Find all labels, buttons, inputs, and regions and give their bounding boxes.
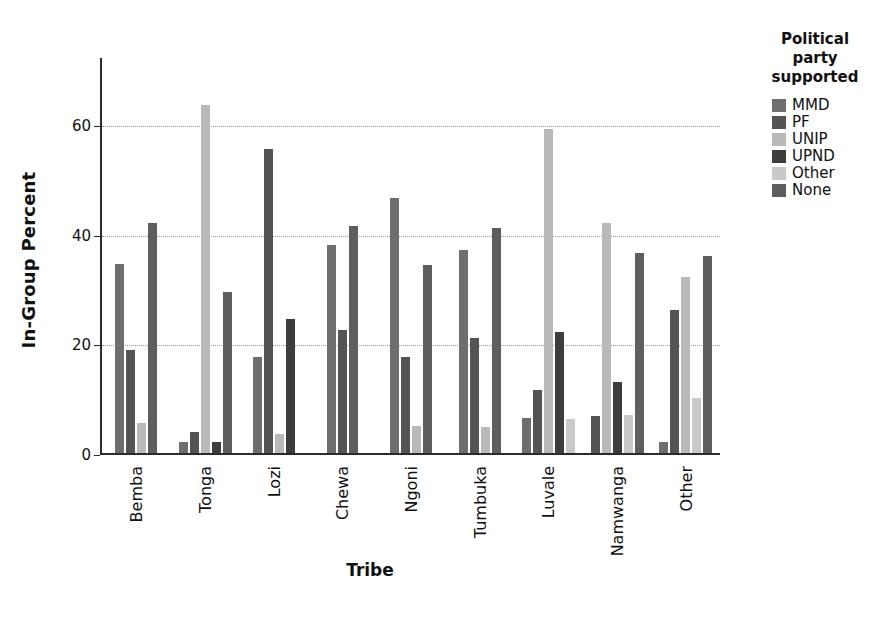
x-tick-label: Chewa <box>333 466 352 520</box>
bar[interactable] <box>223 292 232 453</box>
bar[interactable] <box>115 264 124 453</box>
bar[interactable] <box>423 265 432 453</box>
bar-group <box>651 58 720 453</box>
bar[interactable] <box>212 442 221 453</box>
legend-items: MMDPFUNIPUPNDOtherNone <box>748 98 888 198</box>
bar[interactable] <box>126 350 135 453</box>
x-tick-label: Tonga <box>196 466 215 513</box>
bar[interactable] <box>591 416 600 453</box>
x-tick: Chewa <box>308 462 377 558</box>
bar[interactable] <box>459 250 468 453</box>
x-tick: Lozi <box>239 462 308 558</box>
y-tick-label: 20 <box>72 336 91 354</box>
bar-group <box>445 58 514 453</box>
bar[interactable] <box>481 427 490 453</box>
y-tick-mark <box>94 345 100 346</box>
legend-label: Other <box>792 166 835 181</box>
legend-label: PF <box>792 115 810 130</box>
x-tick-label: Ngoni <box>402 466 421 513</box>
x-tick-label: Namwanga <box>608 466 627 556</box>
bar[interactable] <box>401 357 410 453</box>
bar[interactable] <box>533 390 542 453</box>
x-tick: Tumbuka <box>445 462 514 558</box>
bar[interactable] <box>624 415 633 453</box>
bar[interactable] <box>692 398 701 453</box>
bar[interactable] <box>492 228 501 453</box>
y-tick-label: 40 <box>72 227 91 245</box>
bar-group <box>377 58 446 453</box>
legend-item[interactable]: PF <box>772 115 888 130</box>
bar[interactable] <box>544 129 553 453</box>
legend-label: UPND <box>792 149 835 164</box>
legend-swatch <box>772 150 786 163</box>
legend-swatch <box>772 133 786 146</box>
bar[interactable] <box>275 434 284 453</box>
bar[interactable] <box>602 223 611 453</box>
bar[interactable] <box>390 198 399 453</box>
bar[interactable] <box>179 442 188 453</box>
bar[interactable] <box>264 149 273 453</box>
x-axis-title: Tribe <box>0 560 740 580</box>
legend-label: UNIP <box>792 132 828 147</box>
bar[interactable] <box>137 423 146 453</box>
y-tick-mark <box>94 455 100 456</box>
bar[interactable] <box>286 319 295 453</box>
bar-group <box>102 58 171 453</box>
legend-label: None <box>792 183 831 198</box>
bar[interactable] <box>349 226 358 453</box>
x-tick-label: Other <box>676 466 695 511</box>
legend-item[interactable]: Other <box>772 166 888 181</box>
x-tick: Ngoni <box>377 462 446 558</box>
x-tick: Namwanga <box>583 462 652 558</box>
bar[interactable] <box>681 277 690 453</box>
y-tick-mark <box>94 236 100 237</box>
legend-swatch <box>772 184 786 197</box>
y-tick-label: 60 <box>72 117 91 135</box>
legend-title: Politicalpartysupported <box>748 30 888 86</box>
bar[interactable] <box>635 253 644 453</box>
bar[interactable] <box>338 330 347 453</box>
bar-group <box>239 58 308 453</box>
bar-chart-figure: In-Group Percent 0204060 BembaTongaLoziC… <box>0 0 894 620</box>
x-tick-label: Lozi <box>264 466 283 497</box>
bar[interactable] <box>659 442 668 453</box>
bar-group <box>171 58 240 453</box>
bar-group <box>583 58 652 453</box>
x-tick: Tonga <box>171 462 240 558</box>
legend-item[interactable]: UNIP <box>772 132 888 147</box>
legend-label: MMD <box>792 98 829 113</box>
bar-group <box>514 58 583 453</box>
bar[interactable] <box>470 338 479 453</box>
bar[interactable] <box>253 357 262 453</box>
bar[interactable] <box>412 426 421 453</box>
x-tick-label: Luvale <box>539 466 558 518</box>
y-tick-mark <box>94 126 100 127</box>
x-tick: Bemba <box>102 462 171 558</box>
x-tick: Other <box>651 462 720 558</box>
legend-swatch <box>772 116 786 129</box>
bar[interactable] <box>522 418 531 453</box>
bar[interactable] <box>190 432 199 453</box>
legend-item[interactable]: UPND <box>772 149 888 164</box>
bar[interactable] <box>555 332 564 453</box>
bar[interactable] <box>201 105 210 453</box>
bar[interactable] <box>670 310 679 453</box>
bar[interactable] <box>566 419 575 453</box>
legend: Politicalpartysupported MMDPFUNIPUPNDOth… <box>748 30 888 200</box>
legend-item[interactable]: MMD <box>772 98 888 113</box>
x-tick: Luvale <box>514 462 583 558</box>
plot-area: 0204060 <box>100 58 720 455</box>
x-tick-label: Tumbuka <box>470 466 489 538</box>
x-tick-label: Bemba <box>127 466 146 522</box>
bar[interactable] <box>148 223 157 453</box>
legend-item[interactable]: None <box>772 183 888 198</box>
x-axis-line <box>100 453 720 455</box>
bar-groups <box>102 58 720 453</box>
bar[interactable] <box>613 382 622 453</box>
bar-group <box>308 58 377 453</box>
bar[interactable] <box>327 245 336 453</box>
legend-swatch <box>772 99 786 112</box>
y-axis-title: In-Group Percent <box>18 150 39 370</box>
x-axis-tick-labels: BembaTongaLoziChewaNgoniTumbukaLuvaleNam… <box>102 462 720 558</box>
bar[interactable] <box>703 256 712 454</box>
